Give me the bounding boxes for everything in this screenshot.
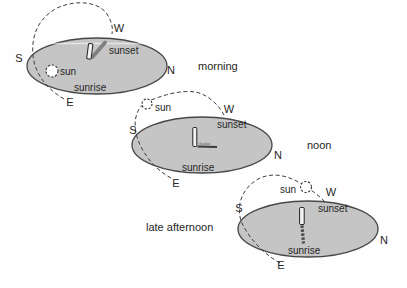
sunrise-label: sunrise	[182, 162, 215, 173]
sunset-label: sunset	[217, 119, 247, 130]
gnomon-stick	[300, 208, 305, 225]
gnomon-shadow	[198, 147, 218, 148]
compass-north: N	[274, 149, 282, 161]
gnomon-stick	[193, 128, 197, 147]
diagram-late-afternoon: W S N E sun sunset sunrise late afternoo…	[146, 175, 388, 271]
sun-icon	[301, 182, 312, 193]
sun-path-diagram-svg: W S N E sun sunset sunrise morning shado…	[0, 0, 407, 288]
compass-east: E	[277, 259, 284, 271]
sunset-label: sunset	[318, 203, 348, 214]
compass-north: N	[167, 64, 175, 76]
time-label-morning: morning	[198, 60, 238, 72]
compass-west: W	[326, 186, 337, 198]
sun-label: sun	[280, 184, 296, 195]
compass-south: S	[129, 124, 136, 136]
diagram-noon: shadow W S N E sun sunset sunrise noon	[129, 92, 331, 189]
sun-label: sun	[60, 66, 76, 77]
compass-east: E	[66, 96, 73, 108]
compass-north: N	[380, 234, 388, 246]
sunrise-label: sunrise	[74, 82, 107, 93]
compass-west: W	[224, 103, 235, 115]
sunset-label: sunset	[109, 45, 139, 56]
sun-icon	[46, 65, 58, 77]
diagram-morning: W S N E sun sunset sunrise morning	[15, 3, 237, 108]
sun-label: sun	[155, 102, 171, 113]
sunrise-label: sunrise	[288, 245, 321, 256]
compass-south: S	[15, 52, 22, 64]
time-label-noon: noon	[307, 139, 331, 151]
sun-path-figure: W S N E sun sunset sunrise morning shado…	[0, 0, 407, 288]
time-label-late-afternoon: late afternoon	[146, 221, 213, 233]
sun-icon	[142, 99, 152, 109]
shadow-label: shadow	[199, 142, 211, 146]
compass-east: E	[172, 177, 179, 189]
compass-west: W	[114, 22, 125, 34]
compass-south: S	[235, 202, 242, 214]
